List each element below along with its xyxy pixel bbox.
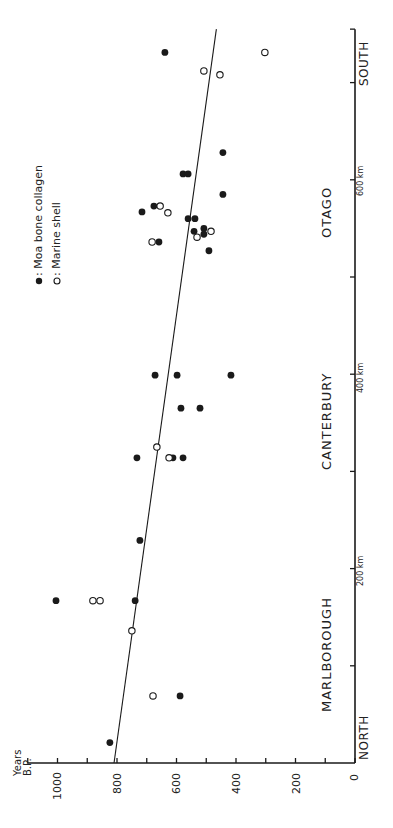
filled-dot-icon — [220, 191, 227, 198]
legend-markers — [36, 278, 60, 284]
filled-dot-icon — [150, 203, 157, 210]
region-canterbury: CANTERBURY — [319, 373, 334, 470]
open-circle-icon — [150, 693, 156, 699]
ytick-label-600: 600 — [170, 773, 183, 794]
open-circle-icon — [90, 597, 96, 603]
filled-dot-icon — [192, 215, 199, 222]
open-circle-icon — [166, 455, 172, 461]
km-label-200: 200 km — [356, 556, 365, 586]
filled-dot-icon — [228, 372, 235, 379]
regression-line — [114, 29, 216, 763]
y-axis-title: Years B.P. — [13, 750, 33, 776]
open-circle-icon — [154, 444, 160, 450]
open-circle-icon — [194, 234, 200, 240]
south-label: SOUTH — [357, 41, 371, 86]
regression-line-path — [114, 29, 216, 763]
scatter-chart — [0, 0, 393, 828]
filled-dot-icon — [206, 247, 213, 254]
data-points — [53, 49, 268, 746]
open-circle-icon — [217, 72, 223, 78]
ytick-label-400: 400 — [230, 773, 243, 794]
ytick-label-0: 0 — [348, 774, 361, 781]
filled-dot-icon — [178, 405, 185, 412]
open-circle-icon — [157, 203, 163, 209]
filled-dot-icon — [174, 372, 181, 379]
filled-dot-icon — [137, 537, 144, 544]
filled-dot-icon — [134, 454, 141, 461]
filled-dot-icon — [180, 454, 187, 461]
filled-dot-icon — [185, 171, 192, 178]
open-circle-icon — [97, 597, 103, 603]
filled-dot-icon — [132, 597, 139, 604]
y-axis-title-line2: B.P. — [23, 750, 33, 776]
legend-marine-shell: : Marine shell — [50, 202, 63, 276]
filled-dot-icon — [53, 597, 60, 604]
filled-dot-icon — [177, 693, 184, 700]
filled-dot-icon — [200, 225, 207, 232]
region-marlborough: MARLBOROUGH — [319, 597, 334, 712]
filled-dot-icon — [197, 405, 204, 412]
filled-dot-icon — [139, 208, 146, 215]
km-label-600: 600 km — [356, 166, 365, 196]
north-label: NORTH — [357, 715, 371, 760]
filled-dot-icon — [185, 215, 192, 222]
region-otago: OTAGO — [319, 187, 334, 238]
ytick-label-200: 200 — [290, 773, 303, 794]
filled-dot-icon — [156, 239, 163, 246]
open-circle-icon — [208, 228, 214, 234]
km-label-400: 400 km — [356, 363, 365, 393]
open-circle-icon — [201, 68, 207, 74]
filled-dot-icon — [220, 149, 227, 156]
filled-dot-icon — [106, 739, 113, 746]
legend-filled-dot-icon — [36, 278, 42, 284]
legend-moa-bone-collagen: : Moa bone collagen — [32, 165, 45, 276]
ytick-label-1000: 1000 — [51, 772, 64, 800]
ytick-label-800: 800 — [111, 773, 124, 794]
axes — [28, 29, 355, 763]
open-circle-icon — [262, 49, 268, 55]
filled-dot-icon — [200, 231, 207, 238]
open-circle-icon — [129, 628, 135, 634]
filled-dot-icon — [152, 372, 159, 379]
open-circle-icon — [165, 210, 171, 216]
filled-dot-icon — [161, 49, 168, 56]
open-circle-icon — [149, 239, 155, 245]
legend-open-circle-icon — [54, 278, 60, 284]
